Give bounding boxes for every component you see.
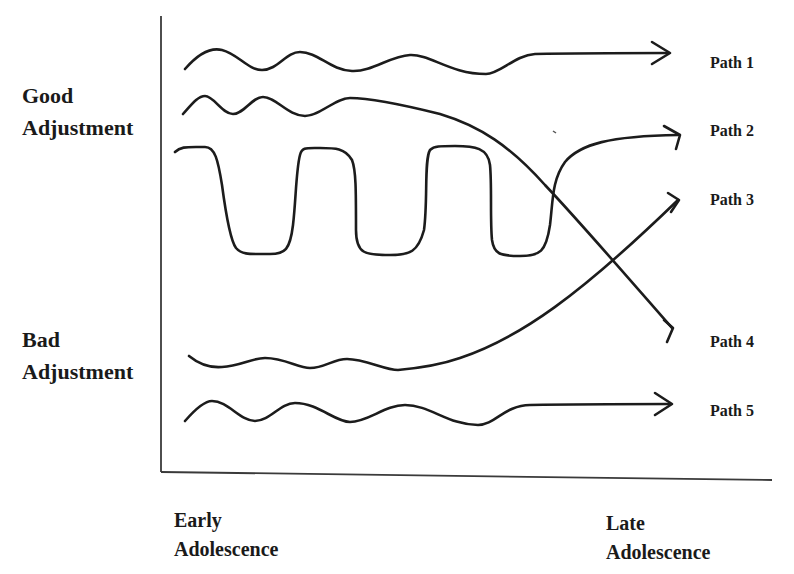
path-2-label: Path 2 (710, 122, 754, 140)
x-label-late-line-1: Late (606, 509, 710, 538)
x-label-late-line-2: Adolescence (606, 538, 710, 567)
y-label-bad-adjustment: Bad Adjustment (22, 324, 133, 388)
y-label-good-adjustment: Good Adjustment (22, 80, 133, 144)
path-3-label: Path 3 (710, 191, 754, 209)
path-5-curve (185, 393, 672, 425)
speck-mark (553, 131, 556, 133)
x-label-early-line-1: Early (174, 506, 278, 535)
path-4-label: Path 4 (710, 333, 754, 351)
path-1-label: Path 1 (710, 54, 754, 72)
y-label-bad-line-1: Bad (22, 324, 133, 356)
y-label-bad-line-2: Adjustment (22, 356, 133, 388)
x-label-late-adolescence: Late Adolescence (606, 509, 710, 567)
y-label-good-line-1: Good (22, 80, 133, 112)
arrow-head-icon (664, 320, 673, 342)
path-1-curve (185, 42, 670, 74)
x-axis (161, 472, 772, 480)
path-3-curve (189, 193, 679, 370)
path-2-curve (175, 126, 680, 256)
x-label-early-adolescence: Early Adolescence (174, 506, 278, 564)
path-4-curve (183, 96, 673, 342)
path-5-label: Path 5 (710, 402, 754, 420)
arrow-head-icon (664, 126, 680, 149)
x-label-early-line-2: Adolescence (174, 535, 278, 564)
developmental-paths-diagram: Good Adjustment Bad Adjustment Path 1 Pa… (0, 0, 794, 574)
y-label-good-line-2: Adjustment (22, 112, 133, 144)
